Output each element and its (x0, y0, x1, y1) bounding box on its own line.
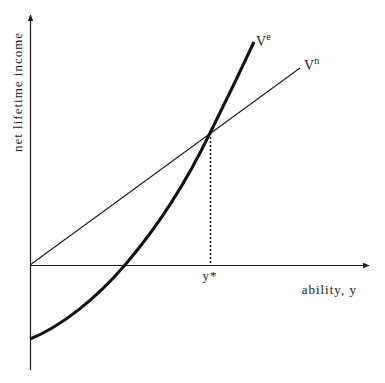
x-axis-label: ability, y (302, 282, 357, 297)
vn-label: Vn (304, 55, 319, 73)
vn-label-sup: n (314, 55, 319, 66)
ve-label: Ve (256, 31, 271, 49)
ve-label-sup: e (266, 31, 271, 42)
y-axis-label: net lifetime income (10, 32, 25, 152)
vn-label-base: V (304, 58, 314, 73)
chart-figure: net lifetime income ability, y y* Ve Vn (0, 0, 385, 383)
ve-label-base: V (256, 34, 266, 49)
ve-curve (30, 42, 254, 339)
ystar-label: y* (203, 268, 218, 283)
vn-line (30, 68, 300, 265)
